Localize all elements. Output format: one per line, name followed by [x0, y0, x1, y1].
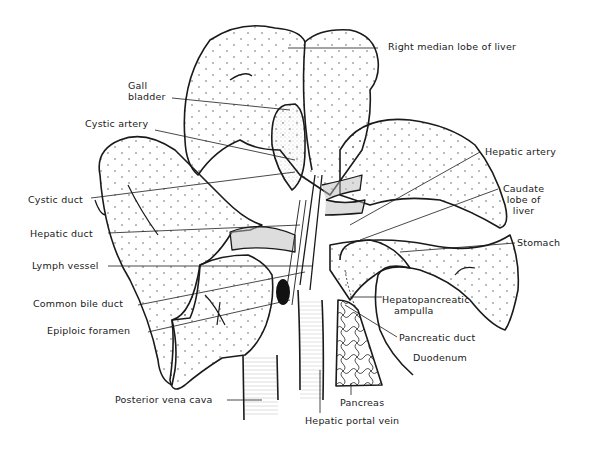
label-caudate-lobe: Caudate lobe of liver [503, 183, 544, 216]
hepatic-portal-vein-shape [298, 290, 323, 400]
anatomy-drawing [0, 0, 593, 453]
epiploic-foramen-shape [276, 279, 290, 305]
label-pancreas: Pancreas [340, 397, 384, 408]
label-cystic-artery: Cystic artery [85, 118, 148, 129]
label-epiploic-foramen: Epiploic foramen [47, 325, 130, 336]
label-gall-bladder: Gall bladder [128, 80, 166, 102]
label-hepatopancreatic-line1: Hepatopancreatic [382, 294, 470, 305]
label-posterior-vena-cava: Posterior vena cava [115, 394, 213, 405]
label-caudate-line3: liver [503, 205, 544, 216]
label-caudate-line1: Caudate [503, 183, 544, 194]
label-lymph-vessel: Lymph vessel [32, 260, 99, 271]
label-gall-bladder-line2: bladder [128, 91, 166, 102]
label-hepatopancreatic-ampulla: Hepatopancreatic ampulla [382, 294, 470, 316]
label-gall-bladder-line1: Gall [128, 80, 166, 91]
label-stomach: Stomach [517, 237, 560, 248]
label-cystic-duct: Cystic duct [28, 194, 83, 205]
label-caudate-line2: lobe of [503, 194, 544, 205]
label-hepatic-duct: Hepatic duct [30, 228, 93, 239]
label-right-median-lobe: Right median lobe of liver [388, 41, 516, 52]
label-hepatic-portal-vein: Hepatic portal vein [305, 415, 399, 426]
label-duodenum: Duodenum [413, 352, 467, 363]
label-pancreatic-duct: Pancreatic duct [399, 332, 475, 343]
posterior-vena-cava-shape [243, 355, 278, 420]
pancreas-shape [336, 300, 382, 386]
label-common-bile-duct: Common bile duct [33, 298, 123, 309]
label-hepatic-artery: Hepatic artery [485, 146, 556, 157]
caudate-lobe-shape [340, 119, 507, 228]
label-hepatopancreatic-line2: ampulla [382, 305, 470, 316]
gall-bladder-shape [272, 104, 305, 190]
